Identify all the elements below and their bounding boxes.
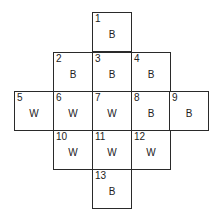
grid-cell-6: 6W (53, 91, 93, 131)
cell-number: 1 (95, 13, 101, 24)
cell-value: B (93, 29, 131, 40)
cell-value: W (54, 147, 92, 158)
cell-value: B (93, 186, 131, 197)
cell-number: 3 (95, 53, 101, 64)
grid-cell-12: 12W (131, 130, 171, 170)
cell-number: 9 (172, 92, 178, 103)
grid-cell-11: 11W (92, 130, 132, 170)
cell-number: 6 (56, 92, 62, 103)
cell-number: 5 (17, 92, 23, 103)
cell-value: W (93, 108, 131, 119)
cell-value: B (93, 69, 131, 80)
cell-number: 2 (56, 53, 62, 64)
cell-value: B (54, 69, 92, 80)
grid-cell-13: 13B (92, 169, 132, 209)
cell-number: 4 (134, 53, 140, 64)
cell-value: W (15, 108, 53, 119)
grid-cell-4: 4B (131, 52, 171, 92)
cell-value: W (54, 108, 92, 119)
cell-value: W (132, 147, 170, 158)
grid-cell-3: 3B (92, 52, 132, 92)
cell-value: W (93, 147, 131, 158)
cell-number: 12 (134, 131, 145, 142)
cell-value: B (132, 108, 170, 119)
cell-number: 7 (95, 92, 101, 103)
grid-cell-8: 8B (131, 91, 171, 131)
cell-value: B (170, 108, 208, 119)
cell-number: 10 (56, 131, 67, 142)
grid-cell-9: 9B (169, 91, 209, 131)
cell-number: 8 (134, 92, 140, 103)
grid-cell-2: 2B (53, 52, 93, 92)
grid-cell-5: 5W (14, 91, 54, 131)
grid-cell-10: 10W (53, 130, 93, 170)
cell-value: B (132, 69, 170, 80)
grid-cell-1: 1B (92, 12, 132, 52)
cell-number: 11 (95, 131, 105, 142)
grid-cell-7: 7W (92, 91, 132, 131)
cell-number: 13 (95, 170, 106, 181)
